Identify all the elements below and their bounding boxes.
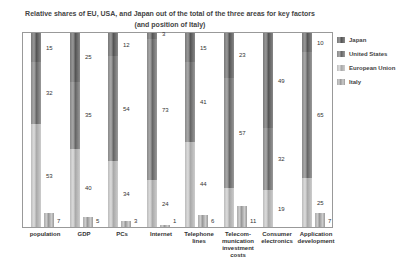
bar-segment-eu bbox=[302, 178, 312, 227]
italy-value-label: 1 bbox=[173, 218, 176, 224]
chart-title: Relative shares of EU, USA, and Japan ou… bbox=[0, 10, 340, 17]
bar-segment-eu bbox=[147, 180, 157, 227]
category-label: PCs bbox=[100, 231, 144, 238]
value-label: 19 bbox=[278, 206, 285, 212]
chart-subtitle: (and position of Italy) bbox=[0, 21, 340, 28]
legend-swatch-eu bbox=[337, 65, 345, 71]
bar-segment-us bbox=[108, 56, 118, 161]
value-label: 15 bbox=[46, 45, 53, 51]
italy-bar bbox=[315, 213, 325, 227]
value-label: 12 bbox=[123, 42, 130, 48]
italy-value-label: 5 bbox=[96, 218, 99, 224]
bar-segment-jp bbox=[302, 33, 312, 52]
italy-bar bbox=[198, 215, 208, 227]
bar-segment-us bbox=[70, 82, 80, 150]
value-label: 73 bbox=[162, 107, 169, 113]
value-label: 65 bbox=[317, 112, 324, 118]
italy-bar bbox=[44, 213, 54, 227]
plot-area bbox=[22, 32, 333, 228]
value-label: 54 bbox=[123, 106, 130, 112]
legend-item-european-union: European Union bbox=[337, 61, 395, 75]
category-label: population bbox=[23, 231, 67, 238]
bar-segment-jp bbox=[31, 33, 41, 62]
bar-segment-us bbox=[147, 39, 157, 181]
bar-segment-us bbox=[185, 62, 195, 142]
italy-value-label: 3 bbox=[134, 218, 137, 224]
italy-bar bbox=[121, 221, 131, 227]
stacked-bar bbox=[31, 33, 41, 227]
bar-segment-eu bbox=[185, 142, 195, 227]
italy-bar bbox=[83, 217, 93, 227]
category-label: Telephone lines bbox=[177, 231, 221, 245]
value-label: 57 bbox=[239, 130, 246, 136]
italy-value-label: 7 bbox=[328, 218, 331, 224]
value-label: 10 bbox=[317, 40, 324, 46]
legend-label: Japan bbox=[349, 37, 366, 43]
legend-item-japan: Japan bbox=[337, 33, 395, 47]
legend: Japan United States European Union Italy bbox=[337, 33, 395, 89]
bar-segment-jp bbox=[108, 33, 118, 56]
value-label: 15 bbox=[200, 45, 207, 51]
category-label: Consumer electronics bbox=[255, 231, 299, 245]
bar-segment-us bbox=[263, 128, 273, 190]
value-label: 32 bbox=[46, 90, 53, 96]
italy-bar bbox=[237, 206, 247, 227]
stacked-bar bbox=[70, 33, 80, 227]
category-label: Telecom- munication investment costs bbox=[216, 231, 260, 259]
stacked-bar bbox=[147, 33, 157, 227]
bar-segment-us bbox=[302, 52, 312, 178]
category-label: Application development bbox=[294, 231, 338, 245]
value-label: 24 bbox=[162, 201, 169, 207]
legend-label: United States bbox=[349, 51, 387, 57]
italy-bar bbox=[160, 225, 170, 227]
legend-swatch-japan bbox=[337, 37, 345, 43]
bar-segment-us bbox=[31, 62, 41, 124]
value-label: 40 bbox=[85, 185, 92, 191]
value-label: 35 bbox=[85, 112, 92, 118]
bar-segment-eu bbox=[108, 161, 118, 227]
bar-segment-jp bbox=[70, 33, 80, 82]
bar-segment-jp bbox=[224, 33, 234, 78]
bar-segment-us bbox=[224, 78, 234, 189]
value-label: 34 bbox=[123, 191, 130, 197]
bar-segment-eu bbox=[70, 149, 80, 227]
value-label: 3 bbox=[162, 31, 165, 37]
stacked-bar bbox=[224, 33, 234, 227]
bar-segment-eu bbox=[224, 188, 234, 227]
value-label: 44 bbox=[200, 181, 207, 187]
legend-item-italy: Italy bbox=[337, 75, 395, 89]
value-label: 32 bbox=[278, 156, 285, 162]
bar-segment-eu bbox=[31, 124, 41, 227]
value-label: 53 bbox=[46, 173, 53, 179]
value-label: 41 bbox=[200, 99, 207, 105]
italy-value-label: 11 bbox=[250, 218, 256, 224]
stacked-bar bbox=[263, 33, 273, 227]
value-label: 49 bbox=[278, 78, 285, 84]
stacked-bar bbox=[185, 33, 195, 227]
legend-label: European Union bbox=[349, 65, 395, 71]
value-label: 25 bbox=[317, 200, 324, 206]
legend-swatch-us bbox=[337, 51, 345, 57]
value-label: 23 bbox=[239, 52, 246, 58]
legend-swatch-italy bbox=[337, 79, 345, 85]
value-label: 25 bbox=[85, 54, 92, 60]
legend-label: Italy bbox=[349, 79, 361, 85]
legend-item-united-states: United States bbox=[337, 47, 395, 61]
stacked-bar bbox=[108, 33, 118, 227]
italy-value-label: 6 bbox=[211, 218, 214, 224]
stacked-bar bbox=[302, 33, 312, 227]
italy-value-label: 7 bbox=[57, 218, 60, 224]
bar-segment-eu bbox=[263, 190, 273, 227]
bar-segment-jp bbox=[263, 33, 273, 128]
bar-segment-jp bbox=[185, 33, 195, 62]
